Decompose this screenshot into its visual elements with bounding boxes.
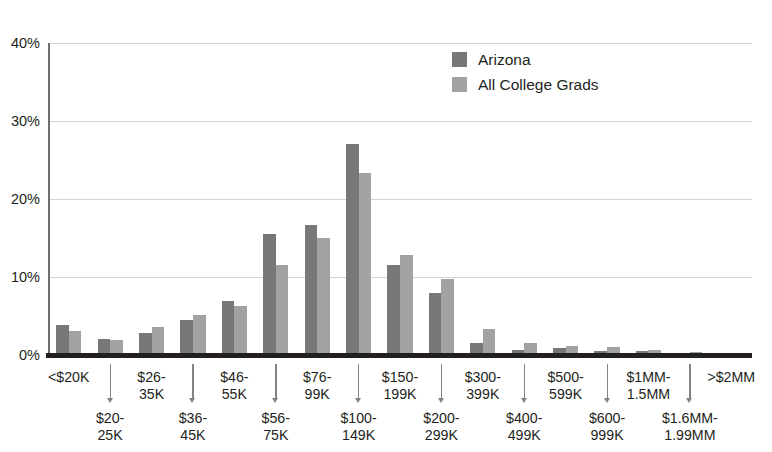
- bar: [276, 265, 289, 355]
- bar: [69, 331, 82, 355]
- legend-swatch-icon: [452, 52, 467, 67]
- x-axis-tick-label: $26-35K: [104, 369, 200, 403]
- bar: [317, 238, 330, 355]
- bar-group: [98, 43, 123, 355]
- bar-group: [387, 43, 412, 355]
- bar-group: [139, 43, 164, 355]
- x-axis-tick-label: $500-599K: [518, 369, 614, 403]
- bar-group: [263, 43, 288, 355]
- bar: [222, 301, 235, 355]
- bar-group: [305, 43, 330, 355]
- bar-group: [677, 43, 702, 355]
- x-axis-tick-label: $1.6MM-1.99MM: [642, 410, 738, 444]
- legend-item: All College Grads: [452, 72, 599, 97]
- legend-swatch-icon: [452, 77, 467, 92]
- bar: [346, 144, 359, 355]
- bar: [180, 320, 193, 355]
- legend-label: All College Grads: [478, 76, 599, 94]
- x-axis-tick-label: $100-149K: [311, 410, 407, 444]
- bar: [400, 255, 413, 355]
- bar-group: [719, 43, 744, 355]
- x-axis-tick-label: $56-75K: [228, 410, 324, 444]
- bar-group: [346, 43, 371, 355]
- bar-group: [180, 43, 205, 355]
- bar: [359, 173, 372, 355]
- bar: [263, 234, 276, 355]
- x-axis-tick-label: $1MM-1.5MM: [600, 369, 696, 403]
- y-axis-line: [48, 43, 50, 356]
- bar-chart: 0%10%20%30%40% ArizonaAll College Grads …: [0, 0, 772, 452]
- bar: [305, 225, 318, 355]
- x-axis-tick-label: <$20K: [21, 369, 117, 386]
- bars-layer: [48, 43, 752, 355]
- plot-area: 0%10%20%30%40%: [48, 43, 752, 355]
- x-axis-tick-label: >$2MM: [683, 369, 772, 386]
- bar: [429, 293, 442, 355]
- y-axis-tick-label: 0%: [19, 347, 40, 363]
- bar: [193, 315, 206, 355]
- x-axis-tick-label: $46-55K: [186, 369, 282, 403]
- bar: [483, 329, 496, 355]
- bar-group: [636, 43, 661, 355]
- x-axis-tick-label: $400-499K: [476, 410, 572, 444]
- legend-label: Arizona: [478, 51, 531, 69]
- x-axis-tick-label: $600-999K: [559, 410, 655, 444]
- y-axis-tick-label: 30%: [11, 113, 40, 129]
- bar: [441, 279, 454, 355]
- x-axis-tick-label: $200-299K: [393, 410, 489, 444]
- y-axis-tick-label: 20%: [11, 191, 40, 207]
- y-axis-tick-label: 10%: [11, 269, 40, 285]
- x-axis-tick-labels: <$20K$20-25K$26-35K$36-45K$46-55K$56-75K…: [48, 358, 752, 452]
- bar: [152, 327, 165, 355]
- bar-group: [429, 43, 454, 355]
- x-axis-tick-label: $300-399K: [435, 369, 531, 403]
- y-axis-tick-label: 40%: [11, 35, 40, 51]
- bar-group: [56, 43, 81, 355]
- bar: [139, 333, 152, 355]
- x-axis-tick-label: $20-25K: [62, 410, 158, 444]
- legend-item: Arizona: [452, 47, 599, 72]
- bar-group: [222, 43, 247, 355]
- x-axis-tick-label: $36-45K: [145, 410, 241, 444]
- x-axis-tick-label: $76-99K: [269, 369, 365, 403]
- bar: [387, 265, 400, 355]
- bar: [56, 325, 69, 355]
- chart-legend: ArizonaAll College Grads: [452, 47, 599, 97]
- x-axis-tick-label: $150-199K: [352, 369, 448, 403]
- bar: [234, 306, 247, 355]
